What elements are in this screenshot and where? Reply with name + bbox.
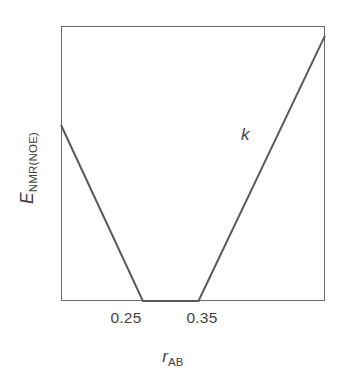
x-axis-title-subscript: AB: [168, 356, 184, 368]
x-axis-title: rAB: [0, 348, 346, 365]
slope-label-k: k: [241, 126, 250, 143]
chart-data-layer: [61, 26, 325, 301]
chart-figure: 0.25 0.35 rAB ENMR(NOE) k: [0, 0, 346, 384]
y-axis-title-symbol: E: [17, 192, 37, 204]
y-axis-title: ENMR(NOE): [19, 132, 37, 204]
y-axis-title-subscript: NMR(NOE): [27, 132, 39, 192]
x-tick-label-0-25: 0.25: [103, 310, 149, 326]
x-tick-label-0-35: 0.35: [179, 310, 225, 326]
restraint-potential-line: [61, 36, 325, 301]
y-axis-title-wrapper: ENMR(NOE): [15, 78, 41, 258]
